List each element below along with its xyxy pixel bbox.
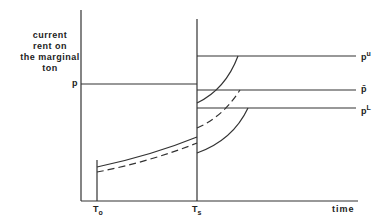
pbar-base: p̄ — [361, 84, 367, 94]
y-axis-label-line: ton — [14, 63, 86, 74]
pl-sup: L — [367, 104, 371, 111]
rent-path-dashed — [97, 143, 197, 172]
curve-to-pu — [197, 56, 238, 103]
x-axis-label: time — [332, 204, 355, 215]
curve-to-pl — [197, 108, 248, 153]
y-axis-label-line: current — [14, 30, 86, 41]
p-level-label: p — [72, 78, 78, 89]
pbar-level-label: p̄ — [361, 84, 367, 95]
y-axis-label: current rent on the marginal ton — [14, 30, 86, 74]
t0-label: To — [93, 204, 103, 218]
rent-path-solid — [97, 137, 197, 167]
pl-level-label: pL — [361, 102, 371, 117]
y-axis-label-line: rent on — [14, 41, 86, 52]
pu-sup: u — [367, 50, 371, 57]
y-axis-label-line: the marginal — [14, 52, 86, 63]
t0-sub: o — [99, 209, 103, 216]
pu-level-label: pu — [361, 48, 371, 63]
ts-label: Ts — [192, 204, 201, 218]
curve-to-pbar — [197, 90, 240, 128]
diagram: current rent on the marginal ton p pu p̄… — [0, 0, 385, 224]
ts-sub: s — [198, 209, 202, 216]
